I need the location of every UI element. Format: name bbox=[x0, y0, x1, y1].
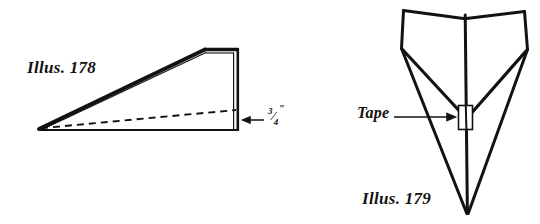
dart-right-side-edge bbox=[525, 12, 528, 50]
dart-inner-left-fold bbox=[403, 50, 465, 117]
illus-179-caption: Illus. 179 bbox=[362, 190, 431, 207]
dart-top-left-edge bbox=[404, 11, 464, 19]
fraction-numerator: 3 bbox=[268, 106, 273, 116]
thickness-dimension-label: 3⁄4″ bbox=[268, 107, 285, 126]
inch-mark: ″ bbox=[279, 103, 285, 114]
right-arrow-icon bbox=[394, 113, 457, 121]
tape-callout-label: Tape bbox=[357, 105, 389, 121]
dart-outer-right-edge bbox=[468, 50, 527, 214]
fraction-denominator: 4 bbox=[274, 117, 279, 127]
dart-top-right-edge bbox=[467, 12, 525, 19]
fraction-three-quarters: 3⁄4 bbox=[268, 108, 279, 126]
dart-left-side-edge bbox=[402, 11, 404, 49]
illustration-page: Illus. 178 Tape 3⁄4″ Illus. 179 bbox=[0, 0, 540, 224]
illus-178-caption: Illus. 178 bbox=[27, 59, 96, 76]
dart-inner-right-fold bbox=[469, 51, 527, 117]
dart-center-spine-over-tape bbox=[466, 106, 467, 130]
